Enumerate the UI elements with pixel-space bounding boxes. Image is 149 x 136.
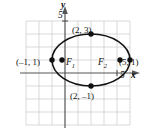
point-vertex-bottom xyxy=(88,83,93,88)
focus-1-label: F1 xyxy=(66,58,75,69)
focus-2-label: F2 xyxy=(98,58,107,69)
ellipse-coordinate-figure: y 5 x 5 (2, 3) (2, –1) (–1, 1) (5, 1) F1… xyxy=(0,0,149,136)
point-label-vertex-left: (–1, 1) xyxy=(16,58,40,67)
point-vertex-left xyxy=(49,57,54,62)
point-focus-1 xyxy=(59,57,64,62)
y-axis-tick-label-5: 5 xyxy=(58,11,63,21)
x-axis-label: x xyxy=(131,71,136,81)
focus-2-subscript: 2 xyxy=(104,62,107,69)
point-label-vertex-top: (2, 3) xyxy=(72,26,92,35)
point-label-vertex-bottom: (2, –1) xyxy=(70,92,94,101)
point-label-vertex-right: (5, 1) xyxy=(119,58,139,67)
x-axis-tick-label-5: 5 xyxy=(120,71,125,81)
focus-1-subscript: 1 xyxy=(72,62,75,69)
